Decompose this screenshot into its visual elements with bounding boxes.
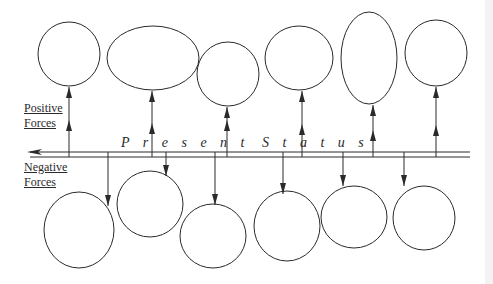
positive-force-circle-1 [38,22,100,86]
positive-force-ellipse-2 [107,26,199,90]
negative-force-circle-4 [254,191,320,261]
positive-force-circle-6 [405,20,467,86]
positive-forces-label: Positive Forces [24,101,63,130]
negative-force-circle-6 [393,186,455,250]
arrowhead-down-icon [340,175,346,186]
negative-force-circle-2 [117,171,183,237]
positive-label-line1: Positive [24,101,63,115]
arrowhead-down-icon [105,195,111,206]
negative-force-circle-3 [180,204,246,268]
arrowhead-down-icon [280,183,286,194]
positive-force-circle-3 [197,42,259,106]
arrowhead-down-icon [401,175,407,186]
negative-label-line1: Negative [24,160,67,174]
negative-label-line2: Forces [24,175,67,189]
negative-force-circle-1 [44,192,114,268]
status-word-present: P r e s e n t [121,135,247,150]
negative-force-circle-5 [321,186,387,248]
positive-label-line2: Forces [24,116,63,130]
positive-force-ellipse-5 [341,12,397,104]
present-status-label: P r e s e n t S t a t u s [121,135,366,151]
status-word-status: S t a t u s [262,135,366,150]
arrowhead-down-icon [212,194,218,205]
positive-force-circle-4 [265,26,333,90]
negative-forces-label: Negative Forces [24,160,67,189]
